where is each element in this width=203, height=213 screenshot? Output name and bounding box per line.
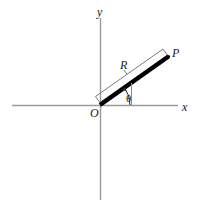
x-axis-label: x: [182, 101, 187, 113]
rod-coordinate-diagram: y x O P R θ: [0, 0, 203, 213]
length-label: R: [120, 59, 127, 71]
y-axis-label: y: [97, 6, 102, 18]
rod: [100, 57, 169, 106]
angle-label: θ: [126, 93, 131, 104]
endpoint-label: P: [172, 47, 179, 59]
point-p-marker: [167, 55, 170, 58]
diagram-canvas: [0, 0, 203, 213]
origin-label: O: [90, 107, 99, 119]
